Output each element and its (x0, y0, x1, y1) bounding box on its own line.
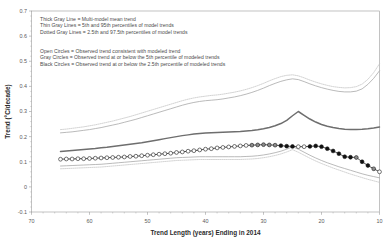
y-axis-tick-label: 0.5 (20, 58, 28, 64)
trend-chart-svg: -0.100.10.20.30.40.50.60.770605040302010… (0, 0, 391, 242)
legend-model-lines: Thick Gray Line = Multi-model mean trend… (40, 16, 188, 36)
observed-marker-black-circle (291, 145, 295, 149)
observed-marker-open-circle (70, 157, 74, 161)
observed-marker-open-circle (296, 145, 300, 149)
legend-circle-markers: Open Circles = Observed trend consistent… (40, 48, 225, 68)
observed-marker-black-circle (320, 145, 324, 149)
observed-marker-open-circle (221, 146, 225, 150)
observed-marker-black-circle (308, 145, 312, 149)
observed-marker-black-circle (343, 155, 347, 159)
observed-marker-open-circle (233, 145, 237, 149)
observed-marker-gray-circle (262, 143, 266, 147)
observed-marker-gray-circle (256, 143, 260, 147)
y-axis-tick-label: 0.6 (20, 33, 28, 39)
y-axis-tick-label: 0.2 (20, 134, 28, 140)
plot-frame (32, 11, 380, 212)
y-axis-tick-label: -0.1 (18, 209, 27, 215)
observed-marker-open-circle (169, 151, 173, 155)
legend-item-dotted-gray-lines: Dotted Gray Lines = 2.5th and 97.5th per… (40, 29, 188, 36)
x-axis-tick-label: 10 (377, 218, 383, 224)
observed-marker-open-circle (151, 153, 155, 157)
observed-marker-open-circle (186, 149, 190, 153)
observed-marker-black-circle (325, 147, 329, 151)
observed-marker-open-circle (134, 154, 138, 158)
observed-marker-open-circle (209, 147, 213, 151)
observed-marker-open-circle (204, 147, 208, 151)
series-line (61, 112, 380, 152)
x-axis-tick-label: 60 (87, 218, 93, 224)
observed-marker-open-circle (215, 146, 219, 150)
observed-marker-black-circle (349, 155, 353, 159)
observed-marker-black-circle (337, 152, 341, 156)
legend-item-thick-gray-line: Thick Gray Line = Multi-model mean trend (40, 16, 188, 23)
x-axis-tick-label: 70 (29, 218, 35, 224)
observed-marker-open-circle (175, 151, 179, 155)
y-axis-tick-label: 0.7 (20, 8, 28, 14)
observed-marker-open-circle (180, 150, 184, 154)
legend-item-black-circles: Black Circles = Observed trend at or bel… (40, 61, 225, 68)
observed-marker-open-circle (140, 154, 144, 158)
legend-item-gray-circles: Gray Circles = Observed trend at or belo… (40, 54, 225, 61)
observed-marker-open-circle (128, 155, 132, 159)
x-axis-title: Trend Length (years) Ending in 2014 (150, 229, 261, 237)
observed-marker-black-circle (285, 144, 289, 148)
observed-marker-open-circle (302, 145, 306, 149)
x-axis-tick-label: 30 (261, 218, 267, 224)
plot-area: -0.100.10.20.30.40.50.60.770605040302010… (4, 8, 383, 237)
series-line (61, 150, 380, 183)
x-axis-tick-label: 40 (203, 218, 209, 224)
y-axis-tick-label: 0.1 (20, 159, 28, 165)
observed-marker-open-circle (146, 153, 150, 157)
observed-marker-open-circle (198, 148, 202, 152)
chart-figure: -0.100.10.20.30.40.50.60.770605040302010… (0, 0, 391, 242)
y-axis-title: Trend (°C/decade) (4, 84, 12, 138)
observed-marker-gray-circle (250, 143, 254, 147)
legend-item-open-circles: Open Circles = Observed trend consistent… (40, 48, 225, 55)
observed-marker-black-circle (314, 144, 318, 148)
y-axis-tick-label: 0 (24, 184, 27, 190)
observed-marker-open-circle (378, 170, 382, 174)
observed-marker-open-circle (64, 157, 68, 161)
x-axis-tick-label: 20 (319, 218, 325, 224)
observed-marker-open-circle (76, 157, 80, 161)
legend-item-thin-gray-lines: Thin Gray Lines = 5th and 95th percentil… (40, 22, 188, 29)
observed-marker-gray-circle (267, 143, 271, 147)
series-line (61, 71, 380, 133)
observed-marker-gray-circle (372, 167, 376, 171)
observed-marker-open-circle (59, 157, 63, 161)
observed-marker-open-circle (99, 156, 103, 160)
observed-marker-open-circle (117, 155, 121, 159)
observed-marker-open-circle (93, 156, 97, 160)
observed-marker-black-circle (279, 144, 283, 148)
y-axis-tick-label: 0.4 (20, 83, 28, 89)
observed-marker-open-circle (238, 144, 242, 148)
observed-marker-black-circle (366, 164, 370, 168)
observed-marker-open-circle (192, 149, 196, 153)
observed-marker-open-circle (163, 152, 167, 156)
observed-marker-open-circle (157, 152, 161, 156)
observed-marker-open-circle (122, 155, 126, 159)
observed-marker-open-circle (227, 145, 231, 149)
series-line (61, 64, 380, 130)
x-axis-tick-label: 50 (145, 218, 151, 224)
observed-marker-gray-circle (273, 143, 277, 147)
observed-marker-open-circle (244, 144, 248, 148)
observed-marker-open-circle (82, 157, 86, 161)
observed-marker-open-circle (88, 157, 92, 161)
observed-marker-open-circle (105, 156, 109, 160)
observed-marker-gray-circle (354, 156, 358, 160)
observed-marker-open-circle (111, 156, 115, 160)
y-axis-tick-label: 0.3 (20, 108, 28, 114)
observed-marker-black-circle (331, 149, 335, 153)
observed-marker-black-circle (360, 160, 364, 164)
